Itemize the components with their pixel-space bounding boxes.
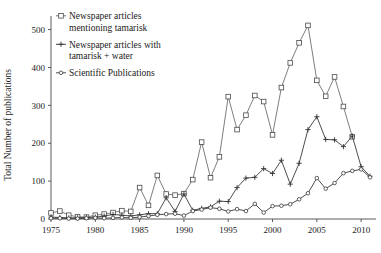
data-point-marker — [49, 216, 53, 220]
data-point-marker — [58, 209, 63, 214]
data-point-marker — [200, 208, 204, 212]
x-tick-label: 2005 — [308, 225, 327, 235]
data-point-marker — [226, 94, 231, 99]
data-point-marker — [315, 176, 319, 180]
legend-item-3[interactable]: Scientific Publications — [56, 68, 155, 78]
y-tick-label: 100 — [32, 176, 46, 186]
data-point-marker — [359, 168, 363, 172]
legend-label: mentioning tamarisk — [69, 23, 148, 33]
data-point-marker — [253, 93, 258, 98]
data-point-marker — [173, 212, 177, 216]
chart-container: 0100200300400500 19751980198519901995200… — [0, 0, 381, 253]
data-point-marker — [76, 217, 80, 221]
y-tick-label: 500 — [32, 25, 46, 35]
legend-item-1[interactable]: Newspaper articlesmentioning tamarisk — [56, 11, 148, 33]
data-point-marker — [235, 127, 240, 132]
legend-label: tamarisk + water — [69, 51, 134, 61]
data-point-marker — [253, 202, 257, 206]
data-point-marker — [324, 187, 328, 191]
data-point-marker — [59, 71, 63, 75]
data-point-marker — [271, 204, 275, 208]
data-point-marker — [235, 207, 239, 211]
data-point-marker — [217, 155, 222, 160]
data-point-marker — [137, 185, 142, 190]
x-tick-label: 1980 — [86, 225, 105, 235]
legend-label: Scientific Publications — [69, 68, 155, 78]
data-point-marker — [262, 211, 266, 215]
x-tick-label: 1985 — [131, 225, 150, 235]
x-tick-label: 1990 — [175, 225, 194, 235]
data-point-marker — [164, 212, 168, 216]
data-point-marker — [288, 202, 292, 206]
data-point-marker — [306, 23, 311, 28]
data-point-marker — [244, 113, 249, 118]
data-point-marker — [128, 209, 133, 214]
data-point-marker — [199, 140, 204, 145]
data-point-marker — [208, 175, 213, 180]
y-tick-label: 400 — [32, 63, 46, 73]
legend-label: Newspaper articles — [69, 11, 142, 21]
data-point-marker — [270, 133, 275, 138]
data-point-marker — [209, 206, 213, 210]
y-tick-label: 0 — [41, 214, 46, 224]
data-point-marker — [129, 216, 133, 220]
data-point-marker — [332, 75, 337, 80]
data-point-marker — [315, 78, 320, 83]
data-point-marker — [333, 181, 337, 185]
data-point-marker — [191, 209, 195, 213]
data-point-marker — [261, 99, 266, 104]
data-point-marker — [218, 207, 222, 211]
data-point-marker — [323, 94, 328, 99]
data-point-marker — [146, 203, 151, 208]
data-point-marker — [182, 214, 186, 218]
data-point-marker — [67, 217, 71, 221]
data-point-marker — [306, 191, 310, 195]
data-point-marker — [288, 61, 293, 66]
chart-background — [0, 0, 381, 253]
data-point-marker — [155, 173, 160, 178]
data-point-marker — [58, 216, 62, 220]
x-tick-label: 2000 — [264, 225, 283, 235]
legend-label: Newspaper articles with — [69, 40, 161, 50]
data-point-marker — [368, 176, 372, 180]
data-point-marker — [94, 216, 98, 220]
data-point-marker — [244, 209, 248, 213]
data-point-marker — [190, 177, 195, 182]
data-point-marker — [297, 41, 302, 46]
data-point-marker — [297, 198, 301, 202]
data-point-marker — [156, 213, 160, 217]
y-axis-title: Total Number of publications — [3, 69, 13, 181]
data-point-marker — [120, 208, 125, 213]
data-point-marker — [173, 193, 178, 198]
data-point-marker — [85, 216, 89, 220]
data-point-marker — [279, 85, 284, 90]
data-point-marker — [111, 216, 115, 220]
data-point-marker — [341, 104, 346, 109]
data-point-marker — [226, 210, 230, 214]
data-point-marker — [138, 215, 142, 219]
data-point-marker — [342, 171, 346, 175]
data-point-marker — [102, 216, 106, 220]
data-point-marker — [147, 214, 151, 218]
line-chart: 0100200300400500 19751980198519901995200… — [0, 0, 381, 253]
data-point-marker — [280, 204, 284, 208]
x-tick-label: 1975 — [42, 225, 61, 235]
x-tick-label: 1995 — [219, 225, 238, 235]
y-tick-label: 200 — [32, 138, 46, 148]
x-tick-label: 2010 — [352, 225, 371, 235]
y-tick-label: 300 — [32, 101, 46, 111]
data-point-marker — [59, 14, 64, 19]
data-point-marker — [120, 216, 124, 220]
data-point-marker — [350, 169, 354, 173]
